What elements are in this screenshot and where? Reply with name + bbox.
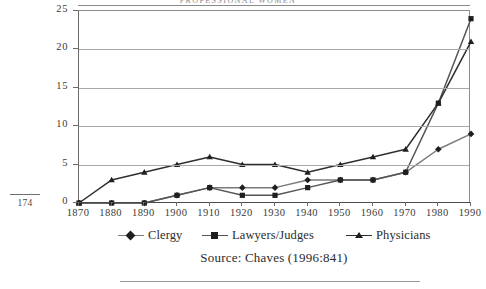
y-axis-label: 0 <box>24 195 68 206</box>
triangle-marker-icon <box>355 232 363 238</box>
series-line-clergy <box>79 134 471 203</box>
gridline <box>79 126 469 127</box>
gridline <box>79 165 469 166</box>
y-axis-label: 10 <box>24 118 68 129</box>
legend-entry-physicians[interactable]: Physicians <box>346 226 430 244</box>
y-axis-label: 25 <box>24 3 68 14</box>
x-axis-tick <box>274 202 275 206</box>
diamond-marker-icon <box>468 131 475 138</box>
diamond-marker-icon <box>272 184 279 191</box>
triangle-marker-icon <box>468 39 474 45</box>
x-axis-tick <box>111 202 112 206</box>
chart-legend: ClergyLawyers/JudgesPhysicians <box>78 226 470 244</box>
series-line-lawyers-judges <box>79 19 471 203</box>
y-axis-tick <box>73 125 78 126</box>
square-marker-icon <box>240 193 245 198</box>
gridline <box>79 88 469 89</box>
gridline <box>79 49 469 50</box>
square-marker-icon <box>338 177 343 182</box>
x-axis-tick <box>437 202 438 206</box>
square-marker-icon <box>370 177 375 182</box>
x-axis-tick <box>143 202 144 206</box>
y-axis-tick <box>73 48 78 49</box>
legend-key <box>202 229 228 241</box>
diamond-marker-icon <box>239 184 246 191</box>
x-axis-tick <box>339 202 340 206</box>
footer-rule <box>120 281 420 282</box>
x-axis-label: 1990 <box>448 207 486 218</box>
y-axis-label: 20 <box>24 41 68 52</box>
diamond-marker-icon <box>304 177 311 184</box>
x-axis-tick <box>470 202 471 206</box>
square-marker-icon <box>305 185 310 190</box>
x-axis-tick <box>78 202 79 206</box>
legend-entry-lawyers-judges[interactable]: Lawyers/Judges <box>202 226 314 244</box>
x-axis-tick <box>209 202 210 206</box>
x-axis-tick <box>241 202 242 206</box>
plot-area <box>78 10 470 202</box>
y-axis-label: 5 <box>24 157 68 168</box>
square-marker-icon <box>174 193 179 198</box>
square-marker-icon <box>403 170 408 175</box>
x-axis-tick <box>307 202 308 206</box>
y-axis-label: 15 <box>24 80 68 91</box>
legend-label: Lawyers/Judges <box>232 228 314 243</box>
y-axis-tick <box>73 164 78 165</box>
x-axis-tick <box>176 202 177 206</box>
y-axis-tick <box>73 87 78 88</box>
source-caption: Source: Chaves (1996:841) <box>78 250 470 266</box>
legend-label: Clergy <box>148 228 182 243</box>
triangle-marker-icon <box>206 154 212 160</box>
y-axis-tick <box>73 10 78 11</box>
legend-key <box>346 229 372 241</box>
diamond-marker-icon <box>126 230 136 240</box>
series-line-physicians <box>79 42 471 203</box>
legend-entry-clergy[interactable]: Clergy <box>118 226 182 244</box>
square-marker-icon <box>211 232 218 239</box>
series-layer <box>79 11 471 203</box>
square-marker-icon <box>468 16 473 21</box>
x-axis-tick <box>372 202 373 206</box>
legend-key <box>118 229 144 241</box>
square-marker-icon <box>207 185 212 190</box>
x-axis-tick <box>405 202 406 206</box>
legend-label: Physicians <box>376 228 430 243</box>
square-marker-icon <box>272 193 277 198</box>
